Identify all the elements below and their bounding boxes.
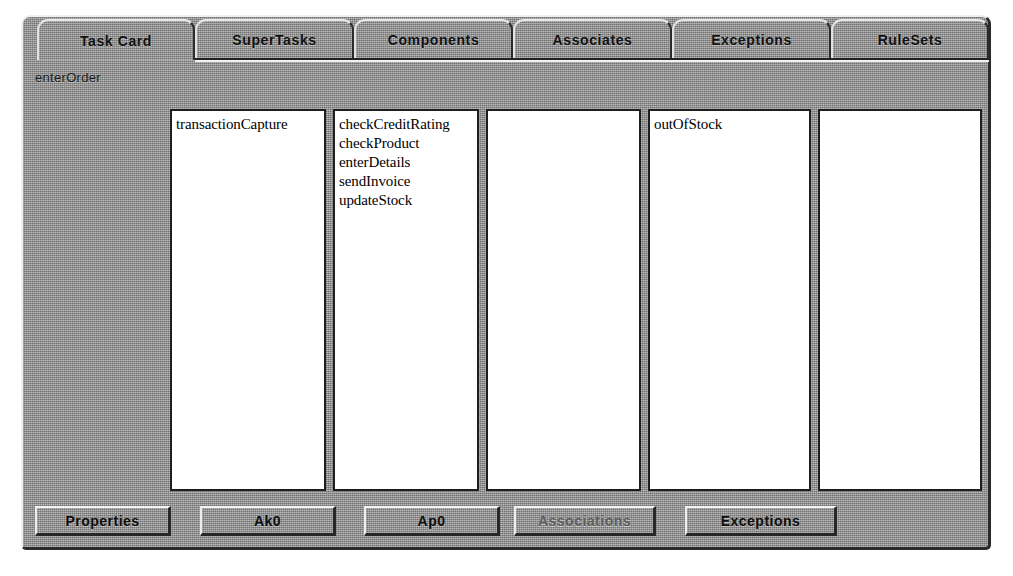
- task-card-content-area: enterOrder transactionCapturecheckCredit…: [23, 58, 988, 547]
- list-item[interactable]: checkCreditRating: [339, 115, 474, 134]
- properties-button[interactable]: Properties: [35, 506, 171, 536]
- tab-label: Exceptions: [711, 32, 792, 48]
- ap0-button[interactable]: Ap0: [364, 506, 500, 536]
- button-bar: PropertiesAk0Ap0AssociationsExceptions: [35, 506, 973, 536]
- tab-supertasks[interactable]: SuperTasks: [195, 19, 354, 58]
- tab-strip: Task CardSuperTasksComponentsAssociatesE…: [23, 17, 988, 58]
- button-label: Properties: [65, 513, 139, 529]
- list-item[interactable]: enterDetails: [339, 153, 474, 172]
- button-label: Ak0: [254, 513, 281, 529]
- components-panel[interactable]: [486, 109, 641, 491]
- tab-label: Components: [388, 32, 480, 48]
- exceptions-button[interactable]: Exceptions: [685, 506, 837, 536]
- tab-exceptions[interactable]: Exceptions: [672, 19, 831, 58]
- rulesets-panel[interactable]: [818, 109, 982, 491]
- tab-rulesets[interactable]: RuleSets: [831, 19, 989, 58]
- button-label: Ap0: [418, 513, 446, 529]
- list-item[interactable]: outOfStock: [654, 115, 806, 134]
- panel-row: transactionCapturecheckCreditRatingcheck…: [170, 109, 982, 491]
- tab-label: SuperTasks: [232, 32, 316, 48]
- list-item[interactable]: sendInvoice: [339, 172, 474, 191]
- button-label: Exceptions: [721, 513, 801, 529]
- list-item[interactable]: updateStock: [339, 191, 474, 210]
- tab-label: RuleSets: [878, 32, 943, 48]
- ak0-button[interactable]: Ak0: [200, 506, 336, 536]
- tab-task-card[interactable]: Task Card: [37, 19, 195, 60]
- associates-panel[interactable]: outOfStock: [648, 109, 811, 491]
- associations-button: Associations: [514, 506, 656, 536]
- tab-label: Task Card: [80, 33, 152, 49]
- tab-components[interactable]: Components: [354, 19, 513, 58]
- tab-label: Associates: [553, 32, 633, 48]
- list-item[interactable]: transactionCapture: [176, 115, 321, 134]
- tab-associates[interactable]: Associates: [513, 19, 672, 58]
- supertasks-panel[interactable]: checkCreditRatingcheckProductenterDetail…: [333, 109, 479, 491]
- button-label: Associations: [538, 513, 631, 529]
- list-item[interactable]: checkProduct: [339, 134, 474, 153]
- task-card-window: Task CardSuperTasksComponentsAssociatesE…: [21, 15, 991, 550]
- context-label: enterOrder: [35, 70, 101, 85]
- task-card-panel[interactable]: transactionCapture: [170, 109, 326, 491]
